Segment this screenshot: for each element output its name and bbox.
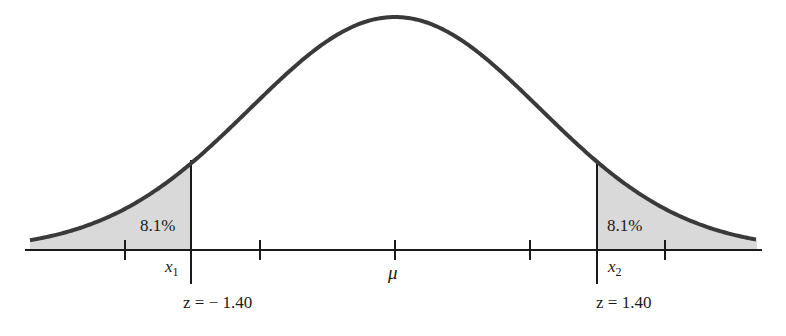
x2-var: x [608,257,616,276]
right-tail-shaded-area [597,162,757,250]
x1-label: x1 [165,257,179,280]
x1-subscript: 1 [173,265,179,279]
right-area-label: 8.1% [607,216,642,236]
normal-curve-figure [0,0,786,336]
left-area-label: 8.1% [140,216,175,236]
z-right-label: z = 1.40 [596,293,651,313]
x1-var: x [165,257,173,276]
mu-label: μ [388,262,398,284]
x2-label: x2 [608,257,622,280]
z-left-label: z = − 1.40 [183,293,252,313]
x2-subscript: 2 [616,265,622,279]
